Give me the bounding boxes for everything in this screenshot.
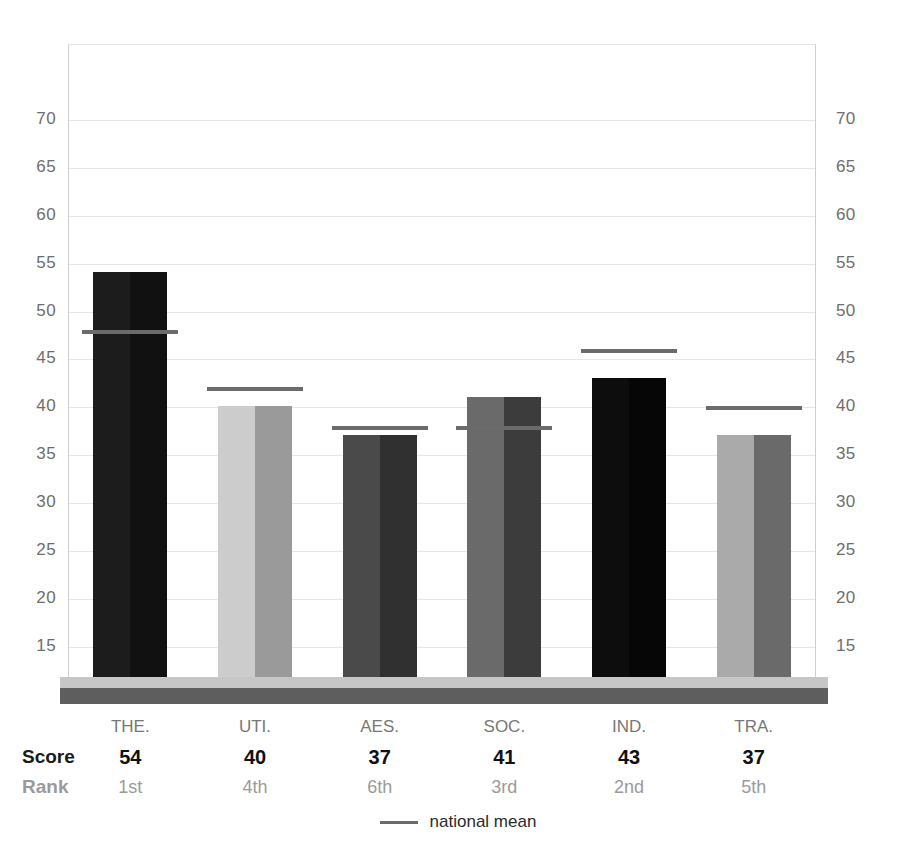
national-mean-marker-the	[82, 330, 178, 334]
bar-face-right	[629, 378, 666, 688]
national-mean-marker-ind	[581, 349, 677, 353]
y-tick-right-25: 25	[836, 541, 876, 558]
y-tick-left-70: 70	[16, 110, 56, 127]
y-tick-left-15: 15	[16, 637, 56, 654]
y-tick-right-30: 30	[836, 493, 876, 510]
y-tick-left-35: 35	[16, 445, 56, 462]
y-tick-left-50: 50	[16, 302, 56, 319]
y-tick-right-70: 70	[836, 110, 876, 127]
rank-value-the: 1st	[70, 772, 190, 802]
legend-label-national-mean: national mean	[430, 812, 537, 832]
category-label-ind: IND.	[569, 712, 689, 742]
bar-face-left	[717, 435, 754, 688]
national-mean-marker-aes	[332, 426, 428, 430]
bar-face-right	[754, 435, 791, 688]
y-tick-right-20: 20	[836, 589, 876, 606]
y-tick-right-55: 55	[836, 254, 876, 271]
category-label-soc: SOC.	[444, 712, 564, 742]
national-mean-marker-soc	[456, 426, 552, 430]
plinth-top-surface	[60, 677, 828, 688]
plinth-front-face	[60, 688, 828, 704]
y-tick-left-65: 65	[16, 158, 56, 175]
rank-value-uti: 4th	[195, 772, 315, 802]
y-tick-left-20: 20	[16, 589, 56, 606]
bar-the	[93, 272, 167, 688]
bar-face-left	[343, 435, 380, 688]
bar-face-left	[218, 406, 255, 688]
score-value-ind: 43	[569, 742, 689, 772]
legend: national mean	[0, 812, 916, 832]
score-value-the: 54	[70, 742, 190, 772]
bar-face-right	[380, 435, 417, 688]
bars-layer	[68, 44, 816, 699]
national-mean-marker-tra	[706, 406, 802, 410]
bar-face-right	[504, 397, 541, 688]
bar-face-right	[255, 406, 292, 688]
chart-base-plinth	[60, 677, 828, 704]
y-tick-left-45: 45	[16, 349, 56, 366]
bar-soc	[467, 397, 541, 688]
national-mean-line-icon	[380, 821, 418, 824]
y-tick-right-60: 60	[836, 206, 876, 223]
y-tick-right-15: 15	[836, 637, 876, 654]
category-label-the: THE.	[70, 712, 190, 742]
bar-tra	[717, 435, 791, 688]
rank-value-ind: 2nd	[569, 772, 689, 802]
table-row-categories: THE.UTI.AES.SOC.IND.TRA.	[0, 712, 916, 742]
national-mean-marker-uti	[207, 387, 303, 391]
y-tick-right-65: 65	[836, 158, 876, 175]
score-value-aes: 37	[320, 742, 440, 772]
rank-value-tra: 5th	[694, 772, 814, 802]
bar-face-right	[130, 272, 167, 688]
category-label-uti: UTI.	[195, 712, 315, 742]
score-value-uti: 40	[195, 742, 315, 772]
bar-face-left	[592, 378, 629, 688]
y-tick-left-55: 55	[16, 254, 56, 271]
bar-aes	[343, 435, 417, 688]
rank-value-aes: 6th	[320, 772, 440, 802]
bar-face-left	[93, 272, 130, 688]
y-tick-left-40: 40	[16, 397, 56, 414]
category-label-tra: TRA.	[694, 712, 814, 742]
bar-face-left	[467, 397, 504, 688]
y-tick-left-25: 25	[16, 541, 56, 558]
score-value-soc: 41	[444, 742, 564, 772]
category-label-aes: AES.	[320, 712, 440, 742]
bar-uti	[218, 406, 292, 688]
y-tick-right-45: 45	[836, 349, 876, 366]
bar-ind	[592, 378, 666, 688]
y-tick-right-40: 40	[836, 397, 876, 414]
y-tick-left-30: 30	[16, 493, 56, 510]
y-tick-right-35: 35	[836, 445, 876, 462]
data-table: THE.UTI.AES.SOC.IND.TRA. Score 544037414…	[0, 712, 916, 802]
table-row-ranks: Rank 1st4th6th3rd2nd5th	[0, 772, 916, 802]
table-row-scores: Score 544037414337	[0, 742, 916, 772]
bar-chart: 706560555045403530252015 706560555045403…	[0, 0, 916, 854]
rank-value-soc: 3rd	[444, 772, 564, 802]
score-value-tra: 37	[694, 742, 814, 772]
y-tick-right-50: 50	[836, 302, 876, 319]
y-tick-left-60: 60	[16, 206, 56, 223]
